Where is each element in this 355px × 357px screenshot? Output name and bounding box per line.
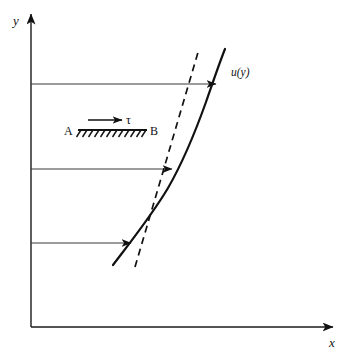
plate-group [77, 120, 148, 137]
velocity-profile-figure: y x A B τ u(y) [0, 0, 355, 357]
tangent-dashed-line [135, 49, 199, 267]
x-axis-label: x [328, 335, 335, 350]
plate-label-b: B [150, 124, 158, 138]
plate-label-a: A [64, 124, 73, 138]
plate-hatching [77, 130, 147, 137]
flow-arrows-group [31, 84, 216, 243]
shear-stress-label: τ [126, 113, 131, 127]
figure-canvas: y x A B τ u(y) [0, 0, 355, 357]
velocity-profile-curve [113, 49, 225, 265]
y-axis-label: y [11, 13, 19, 28]
velocity-profile-label: u(y) [231, 66, 250, 79]
axes-group [31, 14, 333, 327]
